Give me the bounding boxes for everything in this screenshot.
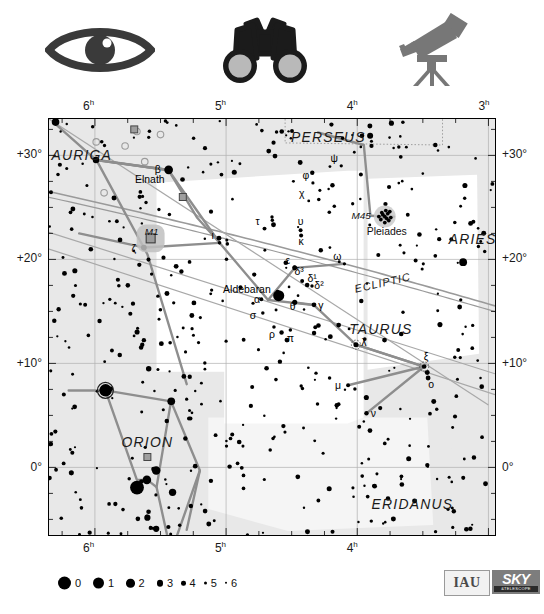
bayer-label: ξ — [424, 351, 429, 363]
deepsky-label: Pleiades — [367, 226, 407, 237]
legend-magnitude-label: 6 — [231, 577, 237, 589]
logo-row: IAU SKY &TELESCOPE — [444, 570, 540, 596]
dec-tick-right: +20° — [502, 251, 527, 265]
binoculars-icon — [185, 8, 345, 92]
legend-dot — [157, 580, 164, 587]
legend-magnitude-label: 0 — [75, 577, 81, 589]
legend-magnitude-label: 1 — [108, 577, 114, 589]
ra-tick-bottom: 6h — [83, 540, 94, 555]
legend-dot — [204, 581, 207, 584]
star-field: AURIGAPERSEUSARIESTAURUSORIONERIDANUSECL… — [49, 119, 495, 535]
star-name-label: Elnath — [135, 174, 165, 185]
legend-dot — [93, 578, 104, 589]
bayer-label: ζ — [132, 243, 137, 255]
dec-tick-right: 0° — [502, 460, 513, 474]
bayer-label: κ — [299, 236, 305, 247]
legend-magnitude-label: 2 — [139, 577, 145, 589]
legend-magnitude-label: 5 — [211, 577, 217, 589]
bayer-label: ω — [333, 251, 341, 262]
visibility-icon-row — [0, 0, 544, 100]
ra-tick-top: 6h — [83, 98, 94, 113]
bayer-label: μ — [335, 380, 341, 391]
bayer-label: π — [287, 333, 294, 344]
bayer-label: δ² — [314, 280, 324, 291]
legend-dot — [181, 581, 186, 586]
bayer-label: ο — [428, 379, 434, 390]
dec-tick-right: +10° — [502, 356, 527, 370]
bayer-label: χ — [299, 188, 305, 199]
constellation-label: ARIES — [448, 231, 495, 247]
deepsky-label: M1 — [145, 226, 159, 237]
legend-dot — [126, 579, 135, 588]
bayer-label: α — [254, 294, 260, 305]
dec-tick-right: +30° — [502, 147, 527, 161]
constellation-label: AURIGA — [51, 147, 113, 163]
bayer-label: γ — [318, 300, 324, 311]
legend-magnitude-label: 3 — [167, 577, 173, 589]
sky-and-telescope-logo: SKY &TELESCOPE — [492, 570, 540, 594]
dec-tick-left: 0° — [0, 460, 42, 474]
bayer-label: ε — [285, 255, 290, 266]
legend-dot — [225, 582, 227, 584]
dec-tick-left: +30° — [0, 147, 42, 161]
dec-tick-left: +20° — [0, 251, 42, 265]
legend-magnitude-label: 4 — [190, 577, 196, 589]
deepsky-label: M45 — [352, 210, 372, 221]
bayer-label: β — [155, 164, 161, 175]
bayer-label: δ³ — [295, 266, 305, 277]
dec-tick-left: +10° — [0, 356, 42, 370]
eye-icon — [20, 8, 180, 92]
constellation-label: PERSEUS — [291, 129, 366, 145]
bayer-label: λ — [361, 337, 367, 348]
ra-tick-top: 5h — [215, 98, 226, 113]
iau-logo: IAU — [444, 570, 490, 596]
bayer-label: φ — [303, 170, 310, 181]
ra-tick-top: 3h — [478, 98, 489, 113]
telescope-logo-text: &TELESCOPE — [494, 586, 538, 592]
ra-tick-top: 4h — [347, 98, 358, 113]
star-chart: AURIGAPERSEUSARIESTAURUSORIONERIDANUSECL… — [48, 118, 496, 536]
bayer-label: υ — [298, 216, 304, 227]
bayer-label: θ — [290, 301, 296, 312]
constellation-label: ORION — [122, 434, 174, 450]
ra-tick-bottom: 5h — [215, 540, 226, 555]
bayer-label: ψ — [331, 153, 338, 164]
constellation-label: ERIDANUS — [372, 496, 454, 512]
ra-tick-bottom: 4h — [347, 540, 358, 555]
constellation-label: TAURUS — [349, 321, 412, 337]
bayer-label: ν — [371, 408, 376, 419]
legend-dot — [58, 577, 71, 590]
sky-logo-text: SKY — [502, 573, 529, 586]
bayer-label: σ — [250, 310, 257, 321]
star-name-label: Aldebaran — [223, 284, 271, 295]
telescope-icon — [355, 8, 515, 92]
magnitude-legend: 0123456 — [48, 568, 348, 598]
bayer-label: ρ — [269, 329, 275, 340]
